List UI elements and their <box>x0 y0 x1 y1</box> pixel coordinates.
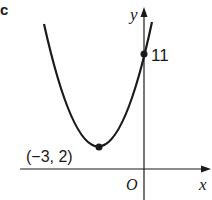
y-axis-label: y <box>128 5 138 24</box>
vertex-point <box>96 144 103 151</box>
x-axis-arrow-icon <box>201 166 211 173</box>
parabola-curve <box>44 22 152 147</box>
y-intercept-label: 11 <box>151 46 169 65</box>
panel-label: c <box>0 1 8 18</box>
origin-label: O <box>126 176 138 193</box>
y-axis-arrow-icon <box>141 7 148 17</box>
x-axis-label: x <box>198 175 207 194</box>
parabola-diagram: c y x O 11 (−3, 2) <box>0 0 212 200</box>
vertex-label: (−3, 2) <box>26 148 73 165</box>
y-intercept-point <box>141 51 148 58</box>
